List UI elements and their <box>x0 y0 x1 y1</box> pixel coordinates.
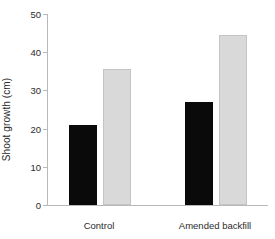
y-tick-label-0: 0 <box>36 200 41 211</box>
bar-amended-light <box>219 35 247 205</box>
plot-area: 50 40 30 20 10 0 Control <box>47 14 268 205</box>
x-axis-label-amended-backfill: Amended backfill <box>179 220 251 231</box>
x-axis-label-control: Control <box>84 220 115 231</box>
y-axis-title: Shoot growth (cm) <box>0 0 14 239</box>
y-tick-mark-10 <box>43 167 47 168</box>
y-tick-mark-50 <box>43 14 47 15</box>
bar-control-light <box>103 69 131 205</box>
bar-control-dark <box>69 125 97 205</box>
x-axis-line <box>47 205 268 206</box>
bar-chart: Shoot growth (cm) 50 40 30 20 10 <box>0 0 275 239</box>
y-tick-mark-30 <box>43 90 47 91</box>
y-tick-mark-20 <box>43 129 47 130</box>
y-tick-label-50: 50 <box>30 9 41 20</box>
y-axis-line <box>47 14 48 205</box>
y-tick-label-30: 30 <box>30 85 41 96</box>
bar-amended-dark <box>185 102 213 205</box>
y-tick-mark-0 <box>43 205 47 206</box>
y-tick-mark-40 <box>43 52 47 53</box>
y-tick-label-40: 40 <box>30 47 41 58</box>
y-tick-label-20: 20 <box>30 123 41 134</box>
y-tick-label-10: 10 <box>30 161 41 172</box>
